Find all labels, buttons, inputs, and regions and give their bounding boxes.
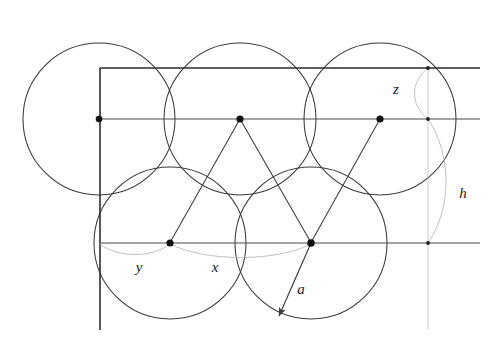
dot-bottom-left [166,239,173,246]
label-z: z [392,81,399,97]
label-a: a [297,281,305,297]
dot-ref-bottom [426,241,430,245]
label-y: y [134,259,143,275]
label-h: h [459,185,467,201]
dot-top-middle [236,115,243,122]
label-x: x [211,259,219,275]
dot-bottom-right [307,239,315,247]
dot-top-left [96,116,103,123]
dot-ref-top [426,66,430,70]
dot-top-right [376,115,383,122]
geometry-diagram: z h y x a [0,0,491,342]
dot-ref-mid [426,117,430,121]
figure-svg: z h y x a [0,0,491,342]
diagram-background [0,0,491,342]
